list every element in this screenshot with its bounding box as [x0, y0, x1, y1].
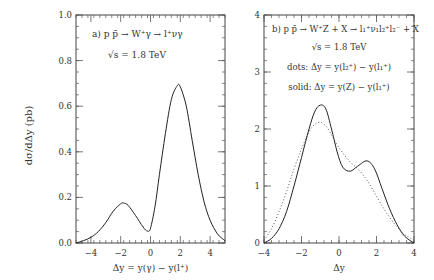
x-tick-label: −4: [258, 248, 271, 258]
chart-canvas: −4−20240.00.20.40.60.81.0a) p p̄ → W⁺γ →…: [0, 0, 434, 280]
y-tick-label: 0: [255, 238, 260, 248]
legend-annotation: solid: Δy = y(Z) − y(l₁⁺): [288, 82, 389, 92]
panel-title: a) p p̄ → W⁺γ → l⁺νγ: [92, 29, 183, 39]
x-tick-label: 2: [374, 248, 379, 258]
y-tick-label: 0.8: [58, 56, 72, 66]
y-tick-label: 3: [255, 67, 260, 77]
x-tick-label: −2: [114, 248, 127, 258]
x-tick-label: −2: [295, 248, 308, 258]
x-tick-label: 4: [207, 248, 212, 258]
solid-curve: [76, 84, 225, 243]
x-tick-label: 0: [148, 248, 153, 258]
y-tick-label: 0.0: [58, 238, 72, 248]
y-tick-label: 0.6: [58, 101, 72, 111]
x-tick-label: 0: [336, 248, 341, 258]
y-tick-label: 0.2: [58, 192, 72, 202]
x-tick-label: −4: [85, 248, 98, 258]
y-tick-label: 1: [255, 181, 260, 191]
x-axis-label: Δy = y(γ) − y(l⁺): [113, 263, 188, 273]
panel-b: −4−202401234b) p p̄ → W⁺Z + X → l₁⁺ν₁l₂⁺…: [255, 10, 420, 273]
legend-annotation: dots: Δy = y(l₂⁺) − y(l₁⁺): [287, 62, 391, 72]
panel-a: −4−20240.00.20.40.60.81.0a) p p̄ → W⁺γ →…: [58, 10, 225, 273]
panel-subtitle: √s = 1.8 TeV: [108, 50, 166, 60]
x-axis-label: Δy: [333, 263, 345, 273]
y-tick-label: 2: [255, 124, 260, 134]
y-tick-label: 0.4: [58, 147, 72, 157]
x-tick-label: 4: [411, 248, 416, 258]
x-tick-label: 2: [178, 248, 183, 258]
y-tick-label: 1.0: [58, 10, 72, 20]
solid-curve: [264, 105, 414, 243]
y-tick-label: 4: [255, 10, 260, 20]
dotted-curve: [264, 122, 414, 240]
panel-title: b) p p̄ → W⁺Z + X → l₁⁺ν₁l₂⁺l₂⁻ + X: [272, 24, 420, 34]
panel-subtitle: √s = 1.8 TeV: [312, 42, 368, 52]
